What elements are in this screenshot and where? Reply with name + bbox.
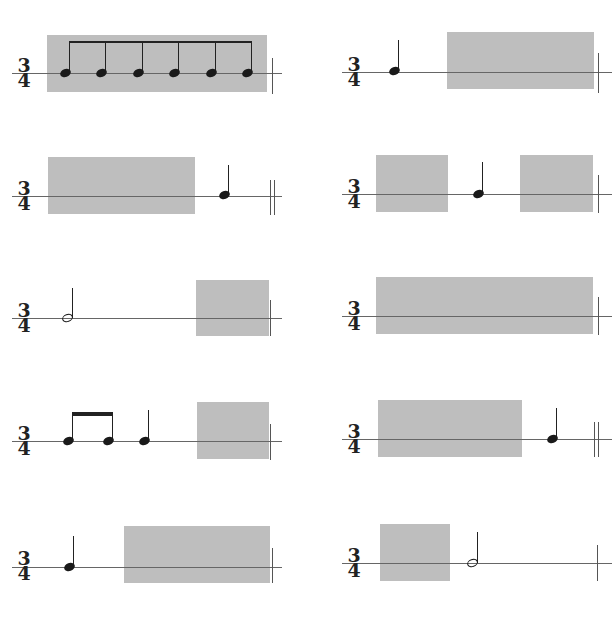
barline — [274, 180, 275, 215]
shaded-region — [48, 157, 195, 214]
rhythm-exercise-4: 34 — [342, 150, 612, 230]
shaded-region — [376, 277, 593, 334]
partial-instruction-text — [30, 0, 330, 3]
time-signature: 34 — [346, 301, 362, 331]
quarter-note — [472, 188, 485, 199]
rhythm-exercise-3: 34 — [12, 150, 282, 230]
time-signature: 34 — [346, 57, 362, 87]
barline — [598, 175, 599, 213]
half-note — [466, 557, 479, 568]
rhythm-exercise-10: 34 — [342, 515, 612, 595]
shaded-region — [47, 35, 267, 92]
rhythm-exercise-5: 34 — [12, 270, 282, 350]
rhythm-exercise-7: 34 — [12, 395, 282, 475]
barline — [598, 297, 599, 335]
shaded-region — [447, 32, 594, 89]
eighth-note — [102, 435, 115, 446]
time-signature: 34 — [346, 424, 362, 454]
barline — [270, 180, 271, 215]
barline — [272, 58, 273, 94]
shaded-region — [378, 400, 522, 457]
half-note — [61, 312, 74, 323]
rhythm-exercise-8: 34 — [342, 395, 612, 475]
rhythm-exercise-6: 34 — [342, 270, 612, 350]
barline — [594, 422, 595, 457]
shaded-region — [520, 155, 593, 212]
barline — [270, 424, 271, 460]
quarter-note — [388, 65, 401, 76]
barline — [272, 548, 273, 583]
time-signature: 34 — [16, 58, 32, 88]
shaded-region — [376, 155, 448, 212]
quarter-note — [218, 189, 231, 200]
shaded-region — [124, 526, 270, 583]
staff-line — [12, 567, 282, 568]
quarter-note — [138, 435, 151, 446]
barline — [270, 300, 271, 336]
barline — [598, 422, 599, 457]
note-stem — [72, 288, 73, 318]
note-stem — [477, 532, 478, 563]
time-signature: 34 — [346, 548, 362, 578]
time-signature: 34 — [16, 303, 32, 333]
quarter-note — [546, 433, 559, 444]
shaded-region — [197, 402, 269, 459]
time-signature: 34 — [346, 179, 362, 209]
staff-line — [12, 196, 282, 197]
staff-line — [342, 439, 612, 440]
beam — [72, 412, 112, 416]
rhythm-exercise-9: 34 — [12, 515, 282, 595]
rhythm-exercise-2: 34 — [342, 30, 612, 110]
staff-line — [12, 318, 282, 319]
staff-line — [342, 316, 612, 317]
shaded-region — [196, 280, 269, 336]
time-signature: 34 — [16, 426, 32, 456]
staff-line — [342, 72, 612, 73]
quarter-note — [63, 561, 76, 572]
beam — [69, 41, 252, 43]
barline — [598, 53, 599, 93]
time-signature: 34 — [16, 551, 32, 581]
barline — [597, 545, 598, 581]
eighth-note — [62, 435, 75, 446]
time-signature: 34 — [16, 181, 32, 211]
shaded-region — [380, 524, 450, 581]
rhythm-exercise-1: 34 — [12, 30, 282, 110]
